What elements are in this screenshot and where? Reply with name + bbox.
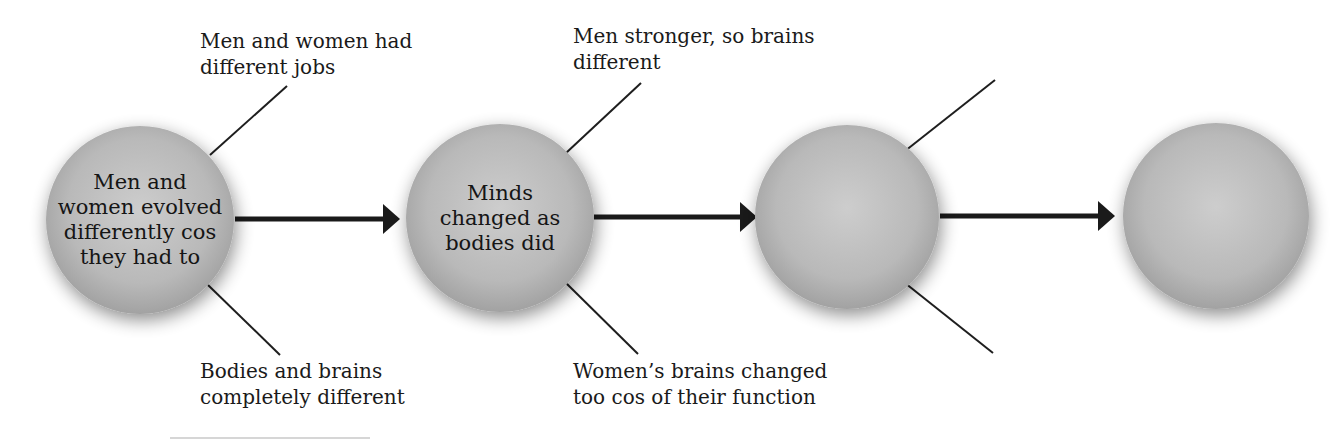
node-3-circle xyxy=(755,125,939,309)
branch-label-n2-top: Men stronger, so brains different xyxy=(573,23,815,75)
branch-line-n3-bottom xyxy=(905,283,993,353)
arrow-n2-n3 xyxy=(594,202,757,232)
branch-label-n1-top: Men and women had different jobs xyxy=(200,28,412,80)
node-2-text: Minds changed as bodies did xyxy=(406,163,594,273)
arrow-n1-n2 xyxy=(235,204,400,234)
arrow-n3-n4 xyxy=(940,201,1115,231)
branch-label-n2-bottom: Women’s brains changed too cos of their … xyxy=(573,358,827,410)
branch-line-n1-bottom xyxy=(208,285,280,355)
node-4-circle xyxy=(1123,123,1309,309)
bottom-edge-line xyxy=(170,437,370,439)
branch-line-n2-bottom xyxy=(566,283,638,354)
branch-line-n1-top xyxy=(210,86,287,155)
branch-line-n2-top xyxy=(566,83,641,153)
node-1-text: Men and women evolved differently cos th… xyxy=(46,150,234,290)
branch-line-n3-top xyxy=(905,80,995,151)
branch-label-n1-bottom: Bodies and brains completely different xyxy=(200,358,405,410)
